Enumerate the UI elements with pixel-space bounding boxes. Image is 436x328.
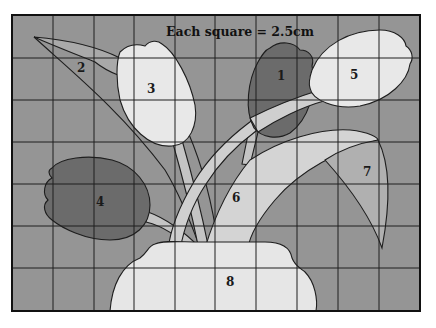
scale-title: Each square = 2.5cm bbox=[166, 24, 314, 39]
tulip-pattern-diagram: Each square = 2.5cm 1 2 3 4 5 6 7 8 bbox=[0, 0, 436, 328]
label-1: 1 bbox=[277, 69, 285, 83]
label-3: 3 bbox=[147, 82, 155, 96]
label-8: 8 bbox=[226, 275, 234, 289]
label-7: 7 bbox=[363, 165, 371, 179]
label-5: 5 bbox=[350, 68, 358, 82]
label-4: 4 bbox=[96, 195, 104, 209]
label-2: 2 bbox=[77, 61, 85, 75]
label-6: 6 bbox=[232, 191, 240, 205]
